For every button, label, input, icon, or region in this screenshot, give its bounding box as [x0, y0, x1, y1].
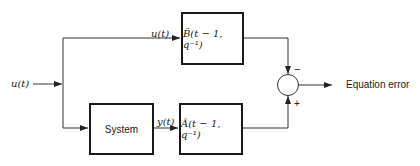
output-label: Equation error: [346, 80, 409, 90]
input-label: u(t): [11, 79, 29, 89]
upper-branch-label: u(t): [151, 29, 169, 39]
b-hat-label: B̂(t − 1, q⁻¹): [183, 28, 242, 50]
system-label: System: [105, 124, 138, 135]
a-hat-label: Â(t − 1, q⁻¹): [181, 118, 241, 140]
a-to-sum-arrow: [243, 96, 288, 128]
a-hat-block: Â(t − 1, q⁻¹): [179, 103, 243, 155]
system-block: System: [89, 103, 154, 155]
plus-sign: +: [294, 99, 300, 109]
b-to-sum-arrow: [244, 38, 288, 74]
b-hat-block: B̂(t − 1, q⁻¹): [181, 12, 244, 65]
summing-junction: [278, 75, 299, 96]
system-output-label: y(t): [157, 117, 174, 127]
minus-sign: −: [294, 64, 300, 75]
